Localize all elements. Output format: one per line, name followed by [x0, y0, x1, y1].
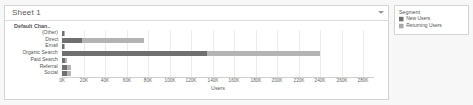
stacked-bar[interactable]: [62, 58, 67, 63]
legend-swatch: [399, 23, 403, 27]
tableau-dashboard: Sheet 1 Default Chan.. (Other)DirectEmai…: [0, 0, 473, 105]
x-axis-tick-label: 140K: [207, 78, 218, 84]
stacked-bar[interactable]: [62, 44, 65, 49]
stacked-bar[interactable]: [62, 31, 65, 36]
stacked-bar[interactable]: [62, 38, 144, 43]
sheet-title: Sheet 1: [12, 8, 41, 17]
x-axis-tick-label: 60K: [122, 78, 130, 84]
x-axis-tick-label: 100K: [164, 78, 175, 84]
x-axis-tick-label: 120K: [186, 78, 197, 84]
plot-region: [62, 30, 374, 77]
stacked-bar[interactable]: [62, 51, 320, 56]
bar-segment[interactable]: [65, 58, 67, 63]
legend-label: Returning Users: [406, 22, 442, 28]
x-axis-tick-label: 220K: [293, 78, 304, 84]
category-axis: (Other)DirectEmailOrganic SearchPaid Sea…: [5, 30, 60, 77]
sheet-titlebar[interactable]: Sheet 1: [5, 6, 388, 21]
legend-title: Segment: [399, 9, 473, 15]
chart-area: Default Chan.. (Other)DirectEmailOrganic…: [5, 21, 388, 99]
legend-item[interactable]: New Users: [399, 16, 472, 22]
chevron-down-icon[interactable]: [378, 11, 384, 14]
legend-swatch: [399, 16, 403, 20]
x-axis-tick-label: 40K: [101, 78, 109, 84]
stacked-bar[interactable]: [62, 71, 71, 76]
stacked-bar[interactable]: [62, 65, 71, 70]
x-axis-title: Users: [62, 86, 374, 91]
bar-segment[interactable]: [64, 31, 65, 36]
bar-row[interactable]: [62, 43, 374, 50]
bar-row[interactable]: [62, 64, 374, 71]
legend-panel: Segment New UsersReturning Users: [394, 5, 469, 35]
bar-row[interactable]: [62, 37, 374, 44]
x-axis-tick-label: 240K: [315, 78, 326, 84]
x-axis-tick-label: 200K: [272, 78, 283, 84]
bar-segment[interactable]: [64, 44, 65, 49]
x-axis-tick-label: 0K: [59, 78, 65, 84]
bar-segment[interactable]: [82, 38, 143, 43]
bar-segment[interactable]: [62, 38, 82, 43]
x-axis-tick-label: 80K: [144, 78, 152, 84]
legend-label: New Users: [406, 16, 430, 22]
x-axis-tick-label: 280K: [358, 78, 369, 84]
bar-row[interactable]: [62, 57, 374, 64]
x-axis-tick-label: 20K: [79, 78, 87, 84]
category-label: Social: [44, 70, 58, 78]
bar-row[interactable]: [62, 50, 374, 57]
x-axis-tick-label: 180K: [250, 78, 261, 84]
bar-segment[interactable]: [67, 65, 70, 70]
x-axis-tick-label: 160K: [229, 78, 240, 84]
bar-row[interactable]: [62, 30, 374, 37]
x-axis-tick-label: 260K: [336, 78, 347, 84]
field-caption: Default Chan..: [14, 23, 50, 29]
legend-item[interactable]: Returning Users: [399, 22, 472, 28]
legend-items: New UsersReturning Users: [399, 16, 464, 28]
bar-segment[interactable]: [207, 51, 320, 56]
bar-segment[interactable]: [67, 71, 70, 76]
worksheet-panel: Sheet 1 Default Chan.. (Other)DirectEmai…: [4, 5, 389, 100]
bar-segment[interactable]: [62, 51, 207, 56]
bar-row[interactable]: [62, 70, 374, 77]
